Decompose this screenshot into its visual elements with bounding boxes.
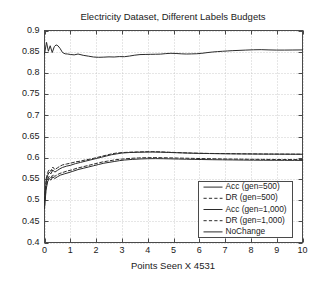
legend-label-1: DR (gen=500)	[226, 192, 279, 202]
x-tick-label: 8	[248, 245, 253, 255]
legend-label-3: DR (gen=1,000)	[226, 215, 286, 225]
y-tick-label: 0.7	[27, 110, 40, 120]
x-tick-label: 2	[94, 245, 99, 255]
x-tick-label: 3	[119, 245, 124, 255]
legend-label-2: Acc (gen=1,000)	[226, 204, 287, 214]
legend-label-4: NoChange	[226, 226, 266, 236]
chart-background	[0, 0, 320, 282]
x-tick-label: 4	[145, 245, 150, 255]
y-tick-label: 0.75	[22, 88, 40, 98]
legend-label-0: Acc (gen=500)	[226, 181, 280, 191]
y-tick-label: 0.5	[27, 194, 40, 204]
y-tick-label: 0.45	[22, 216, 40, 226]
x-tick-label: 1	[68, 245, 73, 255]
x-tick-label: 10	[297, 245, 307, 255]
y-tick-label: 0.6	[27, 152, 40, 162]
y-tick-label: 0.8	[27, 67, 40, 77]
y-tick-label: 0.65	[22, 131, 40, 141]
y-tick-label: 0.85	[22, 46, 40, 56]
y-tick-label: 0.9	[27, 25, 40, 35]
chart-title: Electricity Dataset, Different Labels Bu…	[80, 11, 265, 22]
x-tick-label: 5	[171, 245, 176, 255]
x-tick-label: 0	[42, 245, 47, 255]
electricity-line-chart: 0.40.450.50.550.60.650.70.750.80.850.9 0…	[0, 0, 320, 282]
y-tick-label: 0.55	[22, 173, 40, 183]
chart-figure: 0.40.450.50.550.60.650.70.750.80.850.9 0…	[0, 0, 320, 282]
chart-legend[interactable]: Acc (gen=500)DR (gen=500)Acc (gen=1,000)…	[199, 181, 293, 237]
x-tick-label: 7	[223, 245, 228, 255]
x-tick-label: 9	[274, 245, 279, 255]
y-tick-label: 0.4	[27, 237, 40, 247]
x-axis-label: Points Seen X 4531	[131, 260, 215, 271]
x-tick-label: 6	[197, 245, 202, 255]
